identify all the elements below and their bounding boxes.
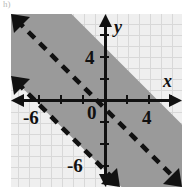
y-tick--6 xyxy=(100,165,109,167)
y-tick--2 xyxy=(100,121,109,123)
x-tick-4 xyxy=(148,95,150,104)
coordinate-plane: -6 4 4 -6 0 y x xyxy=(11,14,182,187)
x-axis-label--6: -6 xyxy=(23,107,39,129)
y-axis-arrow-down xyxy=(99,174,112,187)
axis-arrowheads xyxy=(11,14,182,187)
y-axis-label--6: -6 xyxy=(67,155,83,177)
y-axis-name: y xyxy=(114,17,122,38)
x-axis-name: x xyxy=(163,71,172,92)
x-tick-6 xyxy=(170,95,172,104)
x-tick-2 xyxy=(126,95,128,104)
x-axis-arrow-left xyxy=(11,94,24,107)
y-axis-arrow-up xyxy=(99,14,112,27)
x-tick--2 xyxy=(82,95,84,104)
origin-label: 0 xyxy=(87,102,97,124)
x-tick--6 xyxy=(38,95,40,104)
graph-figure: h) xyxy=(0,0,193,189)
y-tick--4 xyxy=(100,143,109,145)
problem-item-label: h) xyxy=(3,0,11,9)
x-axis-label-4: 4 xyxy=(142,107,152,129)
y-tick-4 xyxy=(100,56,109,58)
y-tick-2 xyxy=(100,78,109,80)
x-tick--4 xyxy=(60,95,62,104)
y-tick-6 xyxy=(100,34,109,36)
y-axis-label-4: 4 xyxy=(85,47,95,69)
